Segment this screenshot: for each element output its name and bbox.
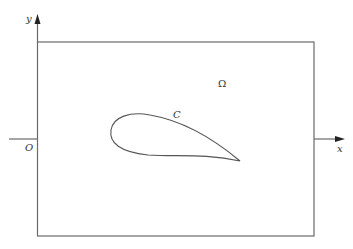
curve-label: C bbox=[173, 109, 181, 120]
airfoil-curve bbox=[111, 114, 240, 161]
y-axis-arrow-icon bbox=[35, 14, 41, 24]
diagram-canvas: y x O C Ω bbox=[0, 0, 353, 249]
domain-label: Ω bbox=[218, 78, 226, 89]
x-axis-label: x bbox=[337, 143, 343, 154]
y-axis-label: y bbox=[25, 13, 32, 24]
origin-label: O bbox=[25, 142, 33, 153]
x-axis-arrow-icon bbox=[335, 136, 345, 142]
domain-rectangle bbox=[38, 42, 315, 236]
